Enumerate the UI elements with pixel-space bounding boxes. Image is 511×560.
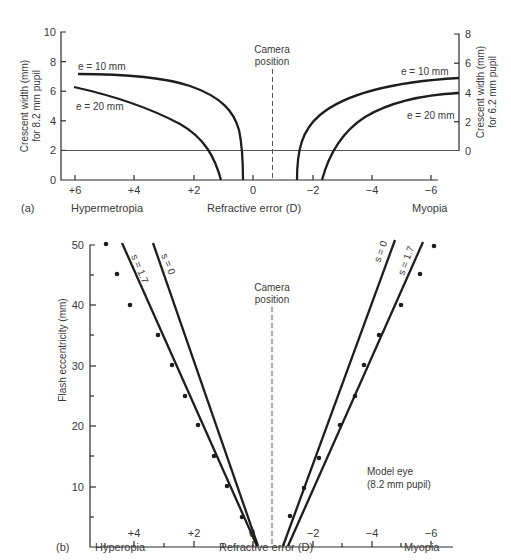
svg-text:Flash eccentricity (mm): Flash eccentricity (mm) — [57, 298, 68, 401]
y-tick-label: 2 — [50, 144, 56, 156]
y-tick-label: 30 — [72, 360, 84, 372]
y-tick-label: 0 — [465, 145, 471, 157]
x-tick-label: −6 — [425, 184, 438, 196]
panel-b-camera-label: position — [255, 294, 289, 305]
panel-a-right-y-tick-labels: 0 2 4 6 8 — [465, 28, 471, 157]
panel-a-label-e20-left: e = 20 mm — [76, 101, 124, 112]
panel-b-line-s0-myopia — [283, 240, 395, 546]
panel-a-left-y-ticks — [61, 62, 66, 151]
panel-a-left-y-label: Crescent width (mm) for 8.2 mm pupil — [19, 60, 42, 152]
panel-a: 0 2 4 6 8 10 Crescent width (mm) for 8.2… — [19, 26, 498, 214]
y-tick-label: 8 — [50, 56, 56, 68]
y-tick-label: 10 — [72, 481, 84, 493]
panel-a-label-e10-right: e = 10 mm — [401, 66, 449, 77]
x-tick-label: +4 — [128, 527, 141, 539]
panel-a-left-y-tick-labels: 0 2 4 6 8 10 — [44, 26, 56, 186]
panel-a-label-e10-left: e = 10 mm — [78, 61, 126, 72]
y-tick-label: 0 — [50, 174, 56, 186]
panel-a-hypermetropia-label: Hypermetropia — [71, 202, 144, 214]
panel-b-myopia-label: Myopia — [404, 541, 440, 553]
panel-b-y-ticks — [90, 275, 96, 517]
y-tick-label: 8 — [465, 28, 471, 40]
svg-text:for 6.2 mm pupil: for 6.2 mm pupil — [487, 56, 498, 128]
panel-b-s0-label-left: s = 0 — [159, 252, 178, 277]
panel-b-line-s0-hyper — [153, 243, 258, 546]
panel-b-points-hyper — [104, 242, 245, 520]
y-tick-label: 4 — [465, 87, 471, 99]
panel-b-s17-label-right: s = 1.7 — [396, 244, 417, 277]
y-tick-label: 4 — [50, 115, 56, 127]
x-tick-label: −6 — [425, 527, 438, 539]
x-tick-label: −2 — [307, 527, 320, 539]
panel-b-y-label: Flash eccentricity (mm) — [57, 298, 68, 401]
y-tick-label: 50 — [72, 239, 84, 251]
panel-b-y-tick-labels: 10 20 30 40 50 — [72, 239, 84, 493]
panel-b-model-eye-pupil-label: (8.2 mm pupil) — [367, 479, 431, 490]
y-tick-label: 6 — [50, 85, 56, 97]
x-tick-label: +6 — [69, 184, 82, 196]
panel-a-x-tick-labels: +6 +4 +2 0 −2 −4 −6 — [69, 184, 438, 196]
figure: 0 2 4 6 8 10 Crescent width (mm) for 8.2… — [0, 0, 511, 560]
panel-a-x-axis-label: Refractive error (D) — [207, 202, 301, 214]
svg-text:Crescent width (mm): Crescent width (mm) — [475, 46, 486, 138]
x-tick-label: +4 — [128, 184, 141, 196]
svg-text:for 8.2 mm pupil: for 8.2 mm pupil — [31, 70, 42, 142]
panel-b-model-eye-label: Model eye — [367, 466, 414, 477]
x-tick-label: −2 — [307, 184, 320, 196]
panel-b: 10 20 30 40 50 Flash eccentricity (mm) +… — [56, 239, 453, 553]
svg-text:Crescent width (mm): Crescent width (mm) — [19, 60, 30, 152]
panel-b-camera-label: Camera — [254, 282, 290, 293]
panel-a-label: (a) — [21, 202, 34, 214]
panel-a-camera-label: position — [255, 56, 289, 67]
panel-a-x-ticks — [75, 175, 431, 180]
y-tick-label: 2 — [465, 116, 471, 128]
panel-a-myopia-label: Myopia — [412, 202, 448, 214]
x-tick-label: −4 — [366, 527, 379, 539]
panel-b-x-tick-labels: +4 +2 0 −2 −4 −6 — [128, 527, 438, 539]
x-tick-label: +2 — [188, 527, 201, 539]
x-tick-label: +2 — [188, 184, 201, 196]
x-tick-label: −4 — [366, 184, 379, 196]
y-tick-label: 10 — [44, 26, 56, 38]
panel-b-label: (b) — [56, 541, 69, 553]
panel-b-x-axis-label: Refractive error (D) — [219, 541, 313, 553]
panel-a-curve-e10-hyper — [78, 74, 243, 180]
y-tick-label: 6 — [465, 57, 471, 69]
panel-a-curve-e20-myopia — [322, 93, 459, 180]
panel-a-label-e20-right: e = 20 mm — [407, 110, 455, 121]
y-tick-label: 40 — [72, 299, 84, 311]
panel-a-right-y-label: Crescent width (mm) for 6.2 mm pupil — [475, 46, 498, 138]
panel-b-line-s17-hyper — [122, 243, 257, 546]
x-tick-label: 0 — [250, 184, 256, 196]
panel-a-camera-label: Camera — [254, 44, 290, 55]
y-tick-label: 20 — [72, 420, 84, 432]
panel-b-hyperopia-label: Hyperopia — [95, 541, 146, 553]
panel-a-curve-e10-myopia — [297, 78, 459, 180]
